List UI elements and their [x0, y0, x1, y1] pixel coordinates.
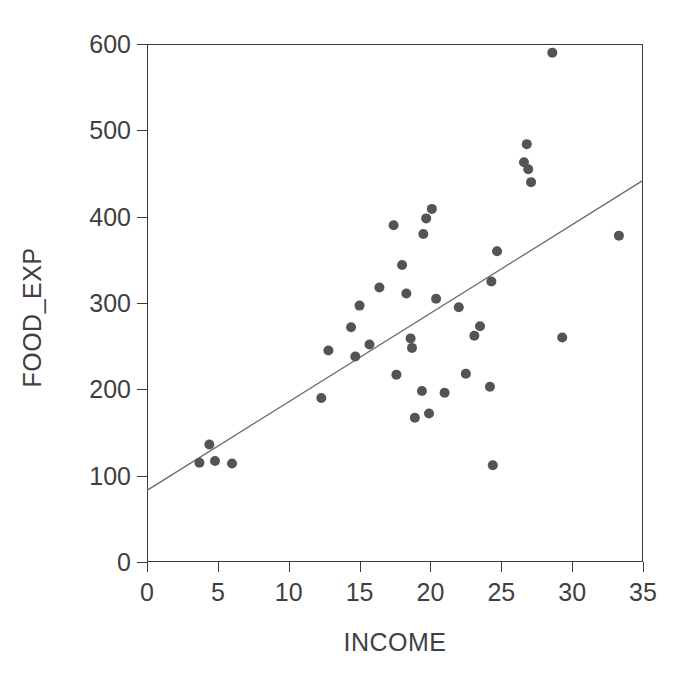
data-point: [418, 229, 428, 239]
x-axis-title: INCOME: [147, 628, 643, 657]
y-tick-label: 0: [61, 548, 131, 577]
data-point: [526, 177, 536, 187]
x-tick-label: 30: [542, 578, 602, 607]
data-points-group: [194, 48, 623, 471]
y-axis-title: FOOD_EXP: [18, 168, 47, 468]
plot-area: [147, 44, 643, 562]
x-tick-mark: [218, 562, 219, 572]
data-point: [350, 352, 360, 362]
y-tick-mark: [137, 476, 147, 477]
y-tick-label: 200: [61, 375, 131, 404]
data-point: [194, 458, 204, 468]
x-tick-label: 20: [400, 578, 460, 607]
data-point: [421, 213, 431, 223]
data-point: [401, 289, 411, 299]
chart-title: [0, 0, 690, 1]
data-point: [417, 386, 427, 396]
x-tick-mark: [501, 562, 502, 572]
y-tick-mark: [137, 44, 147, 45]
data-point: [397, 260, 407, 270]
y-tick-label: 400: [61, 202, 131, 231]
y-tick-mark: [137, 130, 147, 131]
data-point: [614, 231, 624, 241]
data-point: [406, 333, 416, 343]
x-tick-label: 15: [330, 578, 390, 607]
data-point: [204, 440, 214, 450]
y-tick-mark: [137, 217, 147, 218]
data-point: [440, 388, 450, 398]
data-point: [346, 322, 356, 332]
data-point: [557, 333, 567, 343]
data-point: [454, 302, 464, 312]
data-point: [427, 204, 437, 214]
data-point: [316, 393, 326, 403]
y-tick-label: 300: [61, 289, 131, 318]
data-point: [391, 370, 401, 380]
x-tick-mark: [147, 562, 148, 572]
x-tick-label: 5: [188, 578, 248, 607]
data-point: [364, 339, 374, 349]
x-tick-mark: [430, 562, 431, 572]
y-tick-label: 500: [61, 116, 131, 145]
data-point: [355, 301, 365, 311]
y-tick-mark: [137, 389, 147, 390]
data-point: [461, 369, 471, 379]
data-point: [389, 220, 399, 230]
data-point: [523, 164, 533, 174]
y-tick-label: 100: [61, 461, 131, 490]
data-point: [469, 331, 479, 341]
y-tick-mark: [137, 562, 147, 563]
data-point: [547, 48, 557, 58]
x-tick-label: 25: [471, 578, 531, 607]
data-point: [485, 382, 495, 392]
data-point: [522, 139, 532, 149]
data-point: [227, 459, 237, 469]
scatter-plot-figure: 0100200300400500600 05101520253035 FOOD_…: [0, 0, 690, 688]
y-tick-label: 600: [61, 30, 131, 59]
x-tick-label: 35: [613, 578, 673, 607]
data-point: [431, 294, 441, 304]
x-tick-label: 0: [117, 578, 177, 607]
data-point: [486, 276, 496, 286]
data-point: [424, 409, 434, 419]
data-point: [410, 413, 420, 423]
data-point: [475, 321, 485, 331]
x-tick-label: 10: [259, 578, 319, 607]
x-tick-mark: [289, 562, 290, 572]
x-tick-mark: [643, 562, 644, 572]
data-point: [492, 246, 502, 256]
data-point: [488, 460, 498, 470]
x-tick-mark: [572, 562, 573, 572]
x-tick-mark: [360, 562, 361, 572]
data-point: [210, 456, 220, 466]
y-tick-mark: [137, 303, 147, 304]
data-point: [374, 282, 384, 292]
data-point: [407, 343, 417, 353]
data-point: [323, 345, 333, 355]
